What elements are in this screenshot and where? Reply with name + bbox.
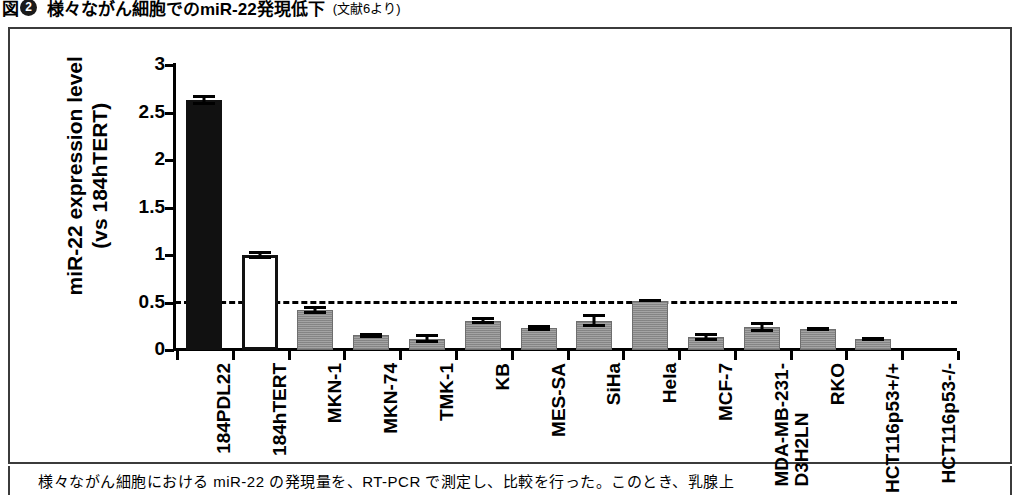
x-axis-label-line: MKN-74 (381, 363, 401, 434)
x-axis-label: TMK-1 (437, 363, 457, 421)
x-axis-label-line: MKN-1 (325, 363, 345, 423)
figure-header: 図 2 様々ながん細胞でのmiR-22発現低下 (文献6より) (0, 0, 1023, 20)
x-axis-label: MDA-MB-231-D3H2LN (772, 363, 812, 487)
x-axis-label: HCT116p53-/- (939, 363, 959, 483)
figure-box: miR-22 expression level(vs 184hTERT) 00.… (8, 27, 1012, 464)
bar-chart: miR-22 expression level(vs 184hTERT) 00.… (10, 29, 1014, 466)
caption-rule-right (1010, 466, 1012, 495)
x-axis-label: MCF-7 (716, 363, 736, 421)
x-axis-label-line: MCF-7 (716, 363, 736, 421)
figure-source-reference: (文献6より) (333, 0, 401, 17)
figure-number-badge: 2 (20, 0, 37, 16)
x-axis-label-line: HCT116p53-/- (939, 363, 959, 483)
x-axis-label: RKO (828, 363, 848, 405)
x-axis-label: Hela (660, 363, 680, 403)
x-axis-label-line: Hela (660, 363, 680, 403)
x-axis-label-line: MES-SA (549, 363, 569, 437)
x-axis-label-line: SiHa (604, 363, 624, 405)
x-axis-label: MKN-74 (381, 363, 401, 434)
x-axis-label-line: 184PDL22 (214, 363, 234, 454)
caption-rule-left (8, 466, 10, 495)
x-axis-label-line: MDA-MB-231- (772, 363, 792, 487)
x-axis-labels: 184PDL22184hTERTMKN-1MKN-74TMK-1KBMES-SA… (10, 29, 1014, 466)
x-axis-label-line: D3H2LN (792, 363, 812, 487)
x-axis-label-line: RKO (828, 363, 848, 405)
x-axis-label: 184PDL22 (214, 363, 234, 454)
x-axis-label-line: KB (493, 363, 513, 390)
x-axis-label-line: 184hTERT (270, 363, 290, 456)
x-axis-label-line: TMK-1 (437, 363, 457, 421)
figure-caption: 様々ながん細胞における miR-22 の発現量を、RT-PCR で測定し、比較を… (38, 470, 1003, 491)
x-axis-label: MES-SA (549, 363, 569, 437)
figure-number-label: 図 (2, 0, 19, 20)
x-axis-label: 184hTERT (270, 363, 290, 456)
x-axis-label: KB (493, 363, 513, 390)
x-axis-label: MKN-1 (325, 363, 345, 423)
figure-title: 様々ながん細胞でのmiR-22発現低下 (47, 0, 325, 20)
x-axis-label: SiHa (604, 363, 624, 405)
